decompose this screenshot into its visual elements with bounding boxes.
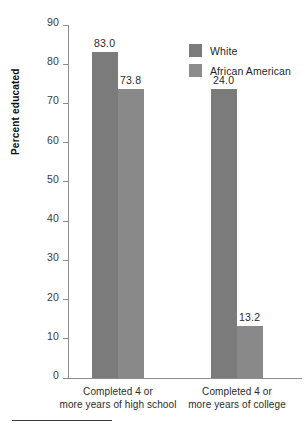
- y-axis-tick-label: 30: [47, 252, 59, 263]
- legend-color-swatch: [189, 44, 202, 57]
- footnote-separator: [12, 420, 112, 421]
- category-label-line: more years of college: [162, 399, 308, 412]
- bar-value-label: 83.0: [94, 38, 115, 49]
- bar-value-label: 13.2: [239, 312, 260, 323]
- bar-high-school-white: [92, 52, 118, 378]
- y-axis-tick-label: 10: [47, 331, 59, 342]
- y-axis-tick-mark: [63, 181, 68, 182]
- category-label-line: Completed 4 or: [162, 386, 308, 399]
- x-axis-category-label: Completed 4 ormore years of college: [162, 386, 308, 411]
- bar-high-school-african-american: [118, 89, 144, 378]
- legend-label: African American: [210, 65, 291, 77]
- y-axis-tick-label: 50: [47, 174, 59, 185]
- y-axis-tick-mark: [63, 103, 68, 104]
- legend-item: African American: [189, 64, 291, 77]
- legend-label: White: [210, 45, 237, 57]
- bar-value-label: 73.8: [120, 75, 141, 86]
- bar-college-african-american: [237, 326, 263, 378]
- y-axis-tick-mark: [63, 378, 68, 379]
- y-axis-title: Percent educated: [10, 68, 21, 155]
- y-axis-tick-mark: [63, 221, 68, 222]
- chart-legend: WhiteAfrican American: [189, 44, 291, 84]
- y-axis-tick-label: 40: [47, 213, 59, 224]
- y-axis-tick-mark: [63, 25, 68, 26]
- y-axis-line: [68, 25, 69, 379]
- y-axis-tick-label: 90: [47, 17, 59, 28]
- x-axis-line: [68, 378, 302, 379]
- y-axis-tick-label: 60: [47, 135, 59, 146]
- y-axis-tick-label: 70: [47, 95, 59, 106]
- y-axis-tick-label: 0: [53, 370, 59, 381]
- y-axis-tick-mark: [63, 142, 68, 143]
- y-axis-tick-mark: [63, 299, 68, 300]
- y-axis-tick-mark: [63, 64, 68, 65]
- y-axis-tick-mark: [63, 338, 68, 339]
- y-axis-tick-mark: [63, 260, 68, 261]
- legend-item: White: [189, 44, 291, 57]
- y-axis-tick-label: 80: [47, 56, 59, 67]
- bar-college-white: [211, 89, 237, 378]
- y-axis-tick-label: 20: [47, 292, 59, 303]
- bar-chart: Percent educated 9080706050403020100 83.…: [0, 0, 308, 430]
- legend-color-swatch: [189, 64, 202, 77]
